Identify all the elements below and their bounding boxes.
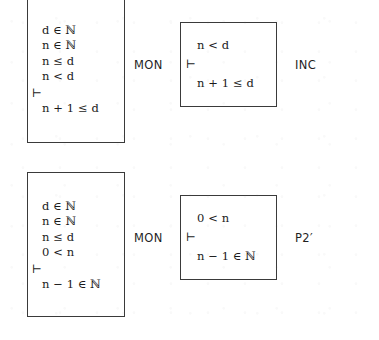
- conclusion-sequent-inc: n < d ⊢ n + 1 ≤ d: [180, 22, 277, 107]
- formula-line: n ∈ ℕ: [28, 214, 124, 230]
- formula-line: 0 < n: [28, 245, 124, 261]
- conclusion-sequent-p2prime: 0 < n ⊢ n − 1 ∈ ℕ: [180, 195, 277, 280]
- turnstile-symbol: ⊢: [181, 228, 276, 247]
- formula-line: n < d: [181, 36, 276, 55]
- turnstile-symbol: ⊢: [28, 261, 124, 277]
- turnstile-symbol: ⊢: [28, 85, 124, 101]
- formula-list: 0 < n ⊢ n − 1 ∈ ℕ: [181, 209, 276, 266]
- rule-label-mon-p2prime: MON: [134, 231, 163, 245]
- formula-line: n − 1 ∈ ℕ: [181, 247, 276, 266]
- rule-label-mon-inc: MON: [134, 58, 163, 72]
- premise-sequent-p2prime: d ∈ ℕ n ∈ ℕ n ≤ d 0 < n ⊢ n − 1 ∈ ℕ: [27, 172, 125, 317]
- formula-line: d ∈ ℕ: [28, 199, 124, 215]
- rule-label-inc: INC: [295, 58, 316, 72]
- proof-diagram: d ∈ ℕ n ∈ ℕ n ≤ d n < d ⊢ n + 1 ≤ d MON …: [0, 0, 379, 340]
- rule-label-p2prime: P2′: [295, 231, 313, 245]
- formula-line: 0 < n: [181, 209, 276, 228]
- formula-line: n ≤ d: [28, 230, 124, 246]
- formula-list: d ∈ ℕ n ∈ ℕ n ≤ d n < d ⊢ n + 1 ≤ d: [28, 23, 124, 117]
- formula-line: n < d: [28, 69, 124, 85]
- formula-line: n + 1 ≤ d: [181, 74, 276, 93]
- formula-line: n + 1 ≤ d: [28, 101, 124, 117]
- formula-line: n ∈ ℕ: [28, 38, 124, 54]
- formula-line: n ≤ d: [28, 54, 124, 70]
- premise-sequent-inc: d ∈ ℕ n ∈ ℕ n ≤ d n < d ⊢ n + 1 ≤ d: [27, 0, 125, 143]
- formula-line: d ∈ ℕ: [28, 23, 124, 39]
- formula-list: d ∈ ℕ n ∈ ℕ n ≤ d 0 < n ⊢ n − 1 ∈ ℕ: [28, 199, 124, 293]
- formula-line: n − 1 ∈ ℕ: [28, 277, 124, 293]
- formula-list: n < d ⊢ n + 1 ≤ d: [181, 36, 276, 93]
- turnstile-symbol: ⊢: [181, 55, 276, 74]
